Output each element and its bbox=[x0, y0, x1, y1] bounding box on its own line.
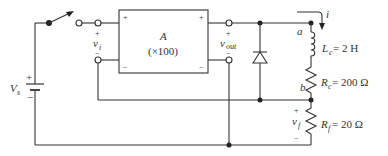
switch-terminal-icon bbox=[76, 20, 82, 26]
node-dot-icon bbox=[227, 143, 232, 148]
vout-plus-terminal-icon bbox=[226, 20, 232, 26]
rc-value: = 200 Ω bbox=[332, 76, 368, 88]
rc-label: R bbox=[320, 76, 328, 88]
svg-text:+: + bbox=[123, 13, 128, 22]
node-dot-icon bbox=[258, 98, 263, 103]
inductor-label: L bbox=[321, 42, 328, 54]
circuit-diagram: + − V s + v i − + − + − A (×100) + v bbox=[0, 0, 388, 156]
svg-text:v: v bbox=[292, 115, 297, 127]
svg-text:+: + bbox=[226, 29, 231, 38]
svg-text:−: − bbox=[123, 63, 128, 72]
current-label: i bbox=[326, 8, 329, 20]
source-plus: + bbox=[26, 71, 32, 83]
inductor-value: = 2 H bbox=[333, 42, 358, 54]
source-subscript: s bbox=[17, 88, 20, 97]
svg-text:−: − bbox=[95, 49, 100, 58]
feedback-resistor bbox=[306, 100, 316, 145]
vi-plus-terminal-icon bbox=[95, 20, 101, 26]
node-a-label: a bbox=[297, 25, 303, 37]
amplifier-name: A bbox=[159, 30, 167, 42]
svg-text:−: − bbox=[226, 49, 231, 58]
input-voltage-label: + v i − bbox=[93, 29, 101, 58]
svg-text:+: + bbox=[294, 106, 299, 115]
svg-text:f: f bbox=[298, 121, 302, 130]
node-b-label: b bbox=[300, 81, 306, 93]
rf-label: R bbox=[320, 118, 328, 130]
amplifier-gain: (×100) bbox=[148, 45, 178, 58]
feedback-voltage-label: + v f − bbox=[292, 106, 302, 143]
diode bbox=[253, 23, 267, 100]
output-voltage-label: + v out − bbox=[220, 29, 237, 58]
svg-text:−: − bbox=[199, 63, 204, 72]
rf-value: = 20 Ω bbox=[332, 118, 363, 130]
voltage-source: + − V s bbox=[10, 23, 44, 145]
inductor bbox=[311, 23, 315, 62]
coil-resistor bbox=[306, 62, 316, 100]
source-minus: − bbox=[27, 91, 33, 103]
svg-text:+: + bbox=[199, 13, 204, 22]
amplifier-block: + − + − A (×100) bbox=[119, 10, 208, 73]
svg-text:v: v bbox=[220, 37, 225, 49]
svg-text:v: v bbox=[93, 37, 98, 49]
svg-text:−: − bbox=[294, 134, 299, 143]
switch[interactable] bbox=[46, 11, 74, 26]
